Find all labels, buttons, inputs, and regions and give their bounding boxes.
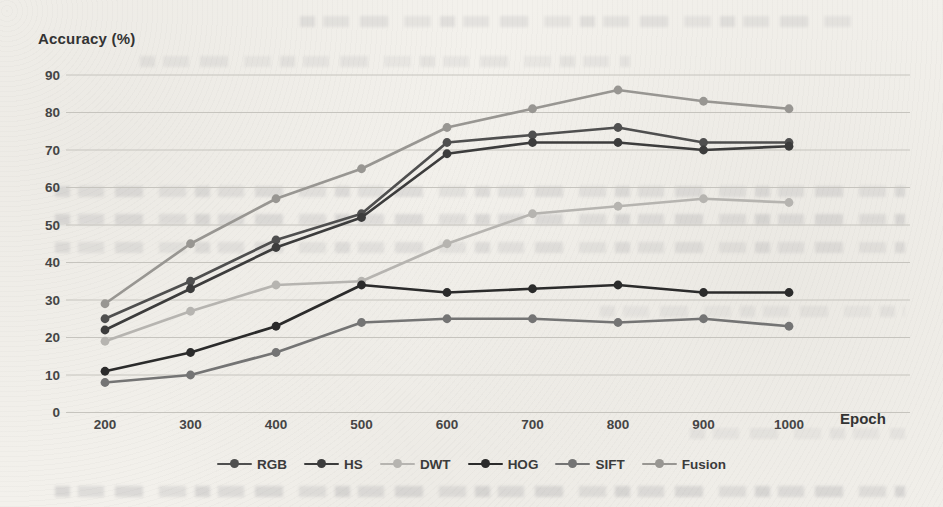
legend-marker-icon <box>555 459 590 469</box>
fusion-data-point <box>614 86 623 95</box>
sift-data-point <box>614 318 623 327</box>
rgb-data-point <box>614 123 623 132</box>
hs-data-point <box>272 243 281 252</box>
sift-data-point <box>101 378 110 387</box>
accuracy-line-chart: 0102030405060708090200300400500600700800… <box>0 0 943 507</box>
y-tick-label: 70 <box>45 143 60 158</box>
y-tick-label: 0 <box>52 405 60 420</box>
sift-data-point <box>528 314 537 323</box>
hog-data-point <box>614 281 623 290</box>
hog-data-point <box>186 348 195 357</box>
dwt-data-point <box>699 194 708 203</box>
hs-data-point <box>699 146 708 155</box>
legend-item-rgb: RGB <box>217 457 287 472</box>
fusion-data-point <box>528 104 537 113</box>
dwt-data-point <box>186 307 195 316</box>
rgb-data-point <box>186 277 195 286</box>
sift-data-point <box>699 314 708 323</box>
hog-data-point <box>101 367 110 376</box>
fusion-data-point <box>443 123 452 132</box>
x-tick-label: 300 <box>179 417 202 432</box>
legend-label: DWT <box>420 457 451 472</box>
chart-legend: RGBHSDWTHOGSIFTFusion <box>0 452 943 476</box>
y-tick-label: 30 <box>45 293 60 308</box>
fusion-data-point <box>186 239 195 248</box>
dwt-data-point <box>443 239 452 248</box>
x-tick-label: 400 <box>265 417 288 432</box>
x-tick-label: 700 <box>521 417 544 432</box>
x-tick-label: 600 <box>436 417 459 432</box>
legend-marker-icon <box>380 459 415 469</box>
sift-data-point <box>785 322 794 331</box>
sift-data-point <box>272 348 281 357</box>
hog-data-point <box>443 288 452 297</box>
y-tick-label: 90 <box>45 68 60 83</box>
rgb-data-point <box>272 236 281 245</box>
legend-item-sift: SIFT <box>555 457 624 472</box>
x-tick-label: 1000 <box>774 417 804 432</box>
hs-data-point <box>614 138 623 147</box>
legend-item-hog: HOG <box>468 457 539 472</box>
x-tick-label: 500 <box>350 417 373 432</box>
sift-series <box>101 314 794 387</box>
fusion-data-point <box>101 299 110 308</box>
y-tick-label: 60 <box>45 180 60 195</box>
y-tick-label: 80 <box>45 105 60 120</box>
hs-data-point <box>101 326 110 335</box>
legend-marker-icon <box>217 459 252 469</box>
hs-data-point <box>443 149 452 158</box>
legend-label: SIFT <box>595 457 624 472</box>
sift-data-point <box>357 318 366 327</box>
rgb-data-point <box>443 138 452 147</box>
hog-data-point <box>357 281 366 290</box>
scanned-page: Accuracy (%) 010203040506070809020030040… <box>0 0 943 507</box>
x-axis-title: Epoch <box>840 410 886 427</box>
legend-label: RGB <box>257 457 287 472</box>
y-tick-label: 40 <box>45 255 60 270</box>
legend-item-fusion: Fusion <box>642 457 726 472</box>
hog-data-point <box>785 288 794 297</box>
legend-marker-icon <box>304 459 339 469</box>
y-tick-label: 20 <box>45 330 60 345</box>
x-tick-label: 900 <box>692 417 715 432</box>
legend-marker-icon <box>642 459 677 469</box>
sift-data-point <box>186 371 195 380</box>
x-tick-label: 800 <box>607 417 630 432</box>
dwt-data-point <box>614 202 623 211</box>
fusion-data-point <box>785 104 794 113</box>
dwt-data-point <box>785 198 794 207</box>
hog-data-point <box>699 288 708 297</box>
dwt-data-point <box>272 281 281 290</box>
legend-marker-icon <box>468 459 503 469</box>
dwt-data-point <box>101 337 110 346</box>
fusion-data-point <box>357 164 366 173</box>
hog-series <box>101 281 794 376</box>
legend-item-dwt: DWT <box>380 457 451 472</box>
rgb-data-point <box>528 131 537 140</box>
legend-label: HOG <box>508 457 539 472</box>
rgb-data-point <box>699 138 708 147</box>
hs-data-point <box>528 138 537 147</box>
rgb-data-point <box>101 314 110 323</box>
hs-data-point <box>186 284 195 293</box>
y-tick-label: 50 <box>45 218 60 233</box>
hs-data-point <box>785 142 794 151</box>
hog-data-point <box>528 284 537 293</box>
hs-data-point <box>357 213 366 222</box>
dwt-data-point <box>528 209 537 218</box>
x-tick-label: 200 <box>94 417 117 432</box>
legend-label: Fusion <box>682 457 726 472</box>
legend-label: HS <box>344 457 363 472</box>
hog-data-point <box>272 322 281 331</box>
hog-line <box>105 285 789 371</box>
sift-data-point <box>443 314 452 323</box>
sift-line <box>105 319 789 383</box>
fusion-data-point <box>699 97 708 106</box>
fusion-data-point <box>272 194 281 203</box>
y-tick-label: 10 <box>45 368 60 383</box>
legend-item-hs: HS <box>304 457 363 472</box>
